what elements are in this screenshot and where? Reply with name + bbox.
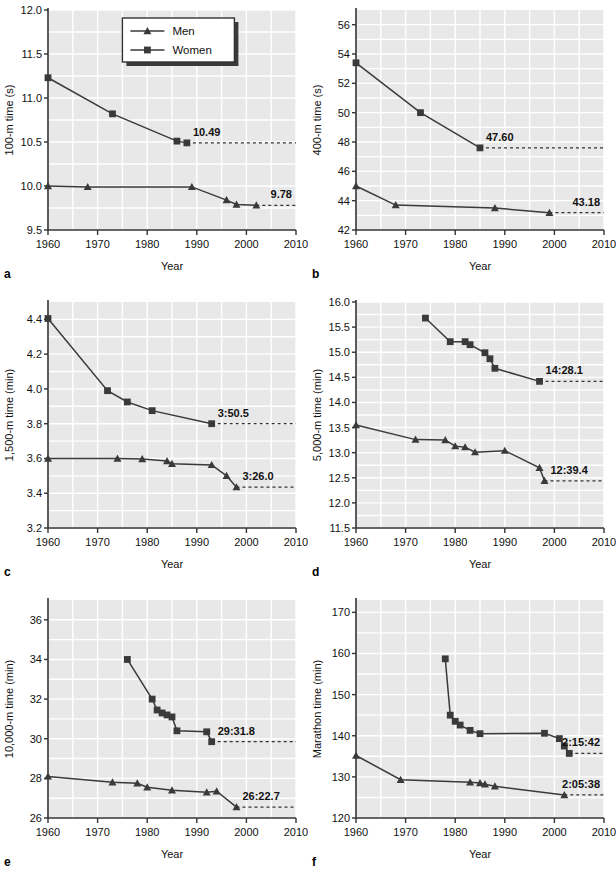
y-tick-label: 14.5: [329, 371, 350, 383]
panel-b: 4244464850525456196019701980199020002010…: [308, 0, 616, 290]
panel-letter-a: a: [4, 268, 11, 280]
data-point: [447, 338, 454, 345]
legend-marker: [144, 47, 151, 54]
chart-e: 262830323436196019701980199020002010Year…: [0, 590, 308, 878]
x-tick-label: 1990: [493, 238, 517, 250]
record-annotation: 3:26.0: [242, 470, 273, 482]
data-point: [169, 714, 176, 721]
y-tick-label: 48: [338, 136, 350, 148]
x-tick-label: 1980: [443, 536, 467, 548]
y-tick-label: 4.2: [27, 348, 42, 360]
x-tick-label: 2000: [234, 826, 258, 838]
y-axis-title: 100-m time (s): [3, 85, 15, 156]
y-tick-label: 9.5: [27, 224, 42, 236]
record-annotation: 47.60: [486, 131, 514, 143]
x-tick-label: 2010: [592, 536, 616, 548]
y-tick-label: 30: [30, 733, 42, 745]
data-point: [203, 728, 210, 735]
y-axis-title: 5,000-m time (min): [311, 369, 323, 461]
y-tick-label: 13.5: [329, 422, 350, 434]
record-annotation: 43.18: [572, 196, 600, 208]
record-annotation: 9.78: [271, 188, 292, 200]
y-tick-label: 150: [332, 689, 350, 701]
data-point: [422, 315, 429, 322]
x-tick-label: 2000: [542, 238, 566, 250]
y-tick-label: 11.0: [21, 92, 42, 104]
y-tick-label: 10.0: [21, 180, 42, 192]
x-tick-label: 1980: [443, 238, 467, 250]
panel-letter-d: d: [312, 566, 319, 578]
record-annotation: 2:05:38: [562, 778, 600, 790]
data-point: [417, 109, 424, 116]
y-tick-label: 3.2: [27, 522, 42, 534]
data-point: [149, 407, 156, 414]
x-tick-label: 1970: [393, 536, 417, 548]
y-tick-label: 140: [332, 730, 350, 742]
x-tick-label: 1970: [393, 238, 417, 250]
y-axis-title: 10,000-m time (min): [3, 660, 15, 758]
x-tick-label: 1960: [36, 536, 60, 548]
x-tick-label: 2000: [234, 536, 258, 548]
data-point: [45, 315, 52, 322]
y-tick-label: 42: [338, 224, 350, 236]
y-tick-label: 28: [30, 772, 42, 784]
x-tick-label: 2000: [542, 826, 566, 838]
chart-a: 9.510.010.511.011.512.019601970198019902…: [0, 0, 308, 290]
world-record-progression-figure: 9.510.010.511.011.512.019601970198019902…: [0, 0, 616, 878]
data-point: [457, 722, 464, 729]
y-tick-label: 32: [30, 693, 42, 705]
x-tick-label: 2000: [234, 238, 258, 250]
y-tick-label: 54: [338, 48, 350, 60]
x-tick-label: 1970: [85, 238, 109, 250]
y-axis-title: 400-m time (s): [311, 85, 323, 156]
data-point: [491, 365, 498, 372]
x-tick-label: 1960: [344, 536, 368, 548]
x-tick-label: 1960: [36, 238, 60, 250]
x-tick-label: 1970: [85, 536, 109, 548]
y-tick-label: 11.5: [21, 48, 42, 60]
x-tick-label: 1990: [185, 536, 209, 548]
y-tick-label: 170: [332, 606, 350, 618]
y-tick-label: 15.0: [329, 346, 350, 358]
x-axis-title: Year: [469, 260, 492, 272]
x-tick-label: 2010: [592, 238, 616, 250]
x-tick-label: 1990: [185, 238, 209, 250]
data-point: [467, 341, 474, 348]
x-tick-label: 1960: [344, 238, 368, 250]
data-point: [174, 138, 181, 145]
y-tick-label: 12.5: [329, 472, 350, 484]
x-tick-label: 1990: [493, 826, 517, 838]
data-point: [477, 730, 484, 737]
x-axis-title: Year: [161, 558, 184, 570]
y-tick-label: 16.0: [329, 296, 350, 308]
data-point: [109, 110, 116, 117]
data-point: [541, 730, 548, 737]
y-tick-label: 56: [338, 19, 350, 31]
x-tick-label: 1970: [393, 826, 417, 838]
data-point: [467, 727, 474, 734]
y-tick-label: 26: [30, 812, 42, 824]
data-point: [124, 399, 131, 406]
y-tick-label: 14.0: [329, 396, 350, 408]
y-tick-label: 120: [332, 812, 350, 824]
y-tick-label: 46: [338, 165, 350, 177]
record-annotation: 2:15:42: [562, 736, 600, 748]
x-tick-label: 1970: [85, 826, 109, 838]
x-tick-label: 1980: [135, 238, 159, 250]
data-point: [447, 712, 454, 719]
legend-label-men: Men: [172, 25, 194, 37]
x-tick-label: 2010: [284, 826, 308, 838]
y-tick-label: 50: [338, 107, 350, 119]
legend-label-women: Women: [172, 44, 211, 56]
x-axis-title: Year: [469, 558, 492, 570]
x-tick-label: 1960: [36, 826, 60, 838]
x-tick-label: 2000: [542, 536, 566, 548]
x-axis-title: Year: [469, 848, 492, 860]
data-point: [353, 59, 360, 66]
panel-letter-f: f: [312, 856, 316, 868]
data-point: [45, 74, 52, 81]
panel-a: 9.510.010.511.011.512.019601970198019902…: [0, 0, 308, 290]
x-tick-label: 1980: [135, 536, 159, 548]
y-tick-label: 4.0: [27, 383, 42, 395]
y-tick-label: 52: [338, 77, 350, 89]
